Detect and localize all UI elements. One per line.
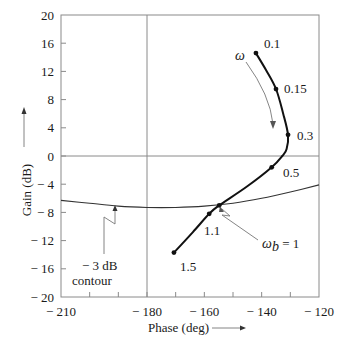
chart-svg: 201612840− 4− 8− 12− 16− 20 − 210− 180− … xyxy=(0,0,348,346)
omega-b-leader-line xyxy=(222,209,258,240)
frequency-marker-0.3 xyxy=(286,132,291,137)
x-tick-labels: − 210− 180− 160− 140− 120 xyxy=(46,304,334,319)
omega-direction-label: ω xyxy=(235,48,245,63)
label-omega-0.3: 0.3 xyxy=(297,128,313,143)
frequency-marker-0.15 xyxy=(274,87,279,92)
y-tick-label: − 12 xyxy=(30,233,54,248)
y-tick-label: 20 xyxy=(41,8,54,23)
y-tick-label: 0 xyxy=(48,149,55,164)
omega-b-label: ωb = 1 xyxy=(262,236,299,254)
y-tick-label: 4 xyxy=(48,120,55,135)
frequency-marker-1.1 xyxy=(207,211,212,216)
y-tick-label: − 8 xyxy=(37,205,54,220)
label-omega-0.15: 0.15 xyxy=(284,81,307,96)
frequency-marker-0.5 xyxy=(269,165,274,170)
y-tick-label: 8 xyxy=(48,92,55,107)
x-axis-title: Phase (deg) xyxy=(148,320,209,335)
frequency-marker-1.5 xyxy=(172,250,177,255)
y-tick-label: − 4 xyxy=(37,177,55,192)
label-omega-0.1: 0.1 xyxy=(264,36,280,51)
x-tick-label: − 120 xyxy=(304,304,334,319)
omega-direction-arrow xyxy=(246,62,273,124)
omega-arrowhead-icon xyxy=(270,121,276,129)
x-tick-label: − 160 xyxy=(189,304,219,319)
y-tick-labels: 201612840− 4− 8− 12− 16− 20 xyxy=(30,8,54,305)
y-axis-title: Gain (dB) xyxy=(19,164,34,216)
x-tick-label: − 180 xyxy=(132,304,162,319)
contour-label-line1: − 3 dB xyxy=(82,258,118,273)
y-tick-label: 16 xyxy=(41,36,55,51)
label-omega-1.5: 1.5 xyxy=(180,259,196,274)
y-tick-label: − 20 xyxy=(30,290,54,305)
x-tick-label: − 210 xyxy=(46,304,76,319)
frequency-response-curve xyxy=(174,53,288,253)
frequency-marker-1 xyxy=(217,203,222,208)
minus-3db-contour xyxy=(61,185,319,208)
nichols-chart: 201612840− 4− 8− 12− 16− 20 − 210− 180− … xyxy=(0,0,348,346)
label-omega-0.5: 0.5 xyxy=(283,165,299,180)
y-tick-label: 12 xyxy=(41,64,54,79)
x-tick-label: − 140 xyxy=(247,304,277,319)
y-tick-label: − 16 xyxy=(30,261,54,276)
contour-label-line2: contour xyxy=(72,273,112,288)
frequency-marker-0.1 xyxy=(254,51,259,56)
x-axis-arrow-icon xyxy=(240,326,246,331)
label-omega-1.1: 1.1 xyxy=(204,223,220,238)
contour-leader-line xyxy=(104,211,115,254)
y-axis-arrow-icon xyxy=(22,107,27,114)
